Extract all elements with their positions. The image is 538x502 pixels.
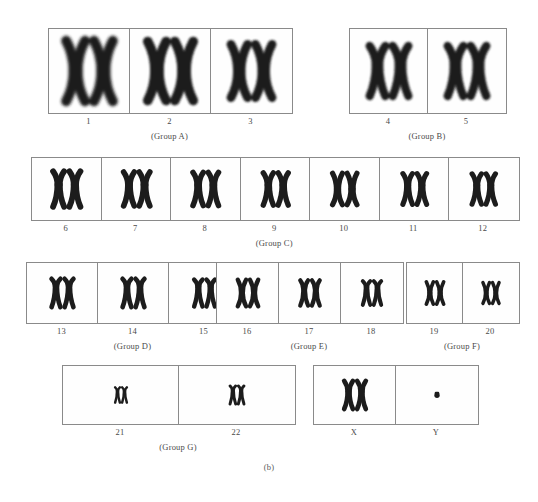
chromosome-pair-4-image xyxy=(350,29,427,113)
chromosome-label-17: 17 xyxy=(278,324,340,338)
group-e-cells xyxy=(216,262,404,324)
chromosome-label-10: 10 xyxy=(309,221,379,235)
chromosome-label-18: 18 xyxy=(340,324,402,338)
group-a-caption: (Group A) xyxy=(48,128,291,142)
chromosome-pair-13-image xyxy=(27,263,97,323)
chromosome-label-6: 6 xyxy=(31,221,101,235)
chromosome-cell-11[interactable] xyxy=(380,158,450,220)
chromosome-pair-3-image xyxy=(211,29,292,113)
chromosome-pair-17-image xyxy=(279,263,340,323)
group-c-cells xyxy=(31,157,520,221)
chromosome-pair-22-image xyxy=(179,366,295,424)
chromosome-pair-8-image xyxy=(171,158,240,220)
chromosome-label-13: 13 xyxy=(26,324,97,338)
group-b-labels: 45 xyxy=(349,114,507,128)
chromosome-cell-16[interactable] xyxy=(217,263,279,323)
chromosome-cell-2[interactable] xyxy=(130,29,211,113)
group-c-labels: 6789101112 xyxy=(31,221,520,235)
group-a-cells xyxy=(48,28,293,114)
chromosome-cell-12[interactable] xyxy=(449,158,519,220)
chromosome-label-21: 21 xyxy=(62,425,178,439)
chromosome-pair-10-image xyxy=(310,158,379,220)
chromosome-cell-21[interactable] xyxy=(63,366,179,424)
chromosome-label-11: 11 xyxy=(379,221,449,235)
chromosome-pair-16-image xyxy=(217,263,278,323)
group-e-labels: 161718 xyxy=(216,324,404,338)
chromosome-pair-11-image xyxy=(380,158,449,220)
chromosome-pair-20-image xyxy=(463,263,519,323)
chromosome-label-7: 7 xyxy=(101,221,171,235)
group-f-labels: 1920 xyxy=(406,324,520,338)
chromosome-cell-4[interactable] xyxy=(350,29,428,113)
group-g-cells xyxy=(62,365,296,425)
chromosome-pair-1-image xyxy=(49,29,129,113)
group-a: 123(Group A) xyxy=(48,28,293,142)
group-g-caption: (Group G) xyxy=(62,439,294,453)
group-g: 2122(Group G) xyxy=(62,365,296,453)
chromosome-cell-10[interactable] xyxy=(310,158,380,220)
group-b-caption: (Group B) xyxy=(349,128,505,142)
group-d-cells xyxy=(26,262,241,324)
chromosome-pair-21-image xyxy=(63,366,178,424)
chromosome-pair-y-image xyxy=(396,366,478,424)
group-d: 131415(Group D) xyxy=(26,262,241,352)
chromosome-cell-5[interactable] xyxy=(428,29,506,113)
chromosome-label-16: 16 xyxy=(216,324,278,338)
chromosome-label-2: 2 xyxy=(129,114,210,128)
chromosome-cell-3[interactable] xyxy=(211,29,292,113)
group-c-caption: (Group C) xyxy=(31,235,518,249)
chromosome-label-y: Y xyxy=(395,425,477,439)
chromosome-label-5: 5 xyxy=(427,114,505,128)
group-e-caption: (Group E) xyxy=(216,338,402,352)
chromosome-cell-20[interactable] xyxy=(463,263,519,323)
chromosome-label-x: X xyxy=(313,425,395,439)
chromosome-cell-x[interactable] xyxy=(314,366,396,424)
group-f-cells xyxy=(406,262,520,324)
chromosome-pair-18-image xyxy=(341,263,403,323)
chromosome-cell-13[interactable] xyxy=(27,263,98,323)
group-sex: XY xyxy=(313,365,479,439)
group-sex-cells xyxy=(313,365,479,425)
chromosome-cell-9[interactable] xyxy=(241,158,311,220)
group-c: 6789101112(Group C) xyxy=(31,157,520,249)
group-f-caption: (Group F) xyxy=(406,338,518,352)
group-b: 45(Group B) xyxy=(349,28,507,142)
group-g-labels: 2122 xyxy=(62,425,296,439)
chromosome-cell-18[interactable] xyxy=(341,263,403,323)
chromosome-pair-7-image xyxy=(102,158,171,220)
chromosome-pair-6-image xyxy=(32,158,101,220)
chromosome-cell-6[interactable] xyxy=(32,158,102,220)
figure-caption: (b) xyxy=(0,462,538,472)
chromosome-label-22: 22 xyxy=(178,425,294,439)
chromosome-cell-8[interactable] xyxy=(171,158,241,220)
group-d-caption: (Group D) xyxy=(26,338,239,352)
chromosome-pair-5-image xyxy=(428,29,506,113)
chromosome-cell-y[interactable] xyxy=(396,366,478,424)
chromosome-label-1: 1 xyxy=(48,114,129,128)
chromosome-label-19: 19 xyxy=(406,324,462,338)
chromosome-cell-1[interactable] xyxy=(49,29,130,113)
chromosome-cell-19[interactable] xyxy=(407,263,463,323)
group-e: 161718(Group E) xyxy=(216,262,404,352)
chromosome-pair-12-image xyxy=(449,158,519,220)
chromosome-cell-17[interactable] xyxy=(279,263,341,323)
chromosome-cell-7[interactable] xyxy=(102,158,172,220)
chromosome-cell-22[interactable] xyxy=(179,366,295,424)
karyotype-figure: 123(Group A)45(Group B)6789101112(Group … xyxy=(0,0,538,502)
chromosome-pair-9-image xyxy=(241,158,310,220)
chromosome-label-12: 12 xyxy=(448,221,518,235)
chromosome-pair-14-image xyxy=(98,263,168,323)
group-f: 1920(Group F) xyxy=(406,262,520,352)
group-d-labels: 131415 xyxy=(26,324,241,338)
chromosome-label-14: 14 xyxy=(97,324,168,338)
chromosome-pair-19-image xyxy=(407,263,462,323)
chromosome-label-9: 9 xyxy=(240,221,310,235)
chromosome-cell-14[interactable] xyxy=(98,263,169,323)
chromosome-pair-x-image xyxy=(314,366,395,424)
group-a-labels: 123 xyxy=(48,114,293,128)
chromosome-label-3: 3 xyxy=(210,114,291,128)
group-b-cells xyxy=(349,28,507,114)
group-sex-labels: XY xyxy=(313,425,479,439)
chromosome-label-4: 4 xyxy=(349,114,427,128)
chromosome-pair-2-image xyxy=(130,29,210,113)
